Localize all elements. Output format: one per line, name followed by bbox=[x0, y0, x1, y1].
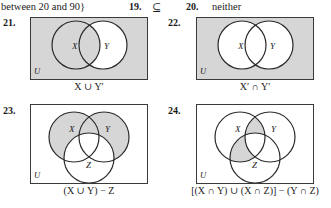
problem-21-number: 21. bbox=[3, 17, 16, 28]
textbook-answer-page: between 20 and 90} 19. ⊆ 20. neither 21. bbox=[0, 0, 331, 208]
problem-23-caption: (X ∪ Y) − Z bbox=[30, 185, 148, 196]
problem-21-caption: X ∪ Y′ bbox=[30, 81, 148, 92]
problem-21-universe-label: U bbox=[34, 67, 40, 76]
answer-value-20: neither bbox=[212, 0, 241, 13]
problem-24-caption: [(X ∩ Y) ∪ (X ∩ Z)] − (Y ∩ Z) bbox=[133, 185, 331, 196]
circle-X-label: X bbox=[71, 41, 78, 51]
problem-23-universe-label: U bbox=[34, 171, 40, 180]
problem-24-universe-label: U bbox=[200, 171, 206, 180]
shaded-X-union-Y-minus-Z bbox=[49, 112, 129, 162]
problem-24-number: 24. bbox=[168, 105, 181, 116]
problem-21-venn-box: X Y bbox=[30, 17, 148, 80]
problem-23-number: 23. bbox=[3, 105, 16, 116]
answer-number-20: 20. bbox=[186, 0, 199, 13]
problem-22-venn-box: X Y bbox=[196, 17, 314, 80]
problem-23-venn-box: X Y Z bbox=[30, 104, 148, 184]
problem-22-number: 22. bbox=[168, 17, 181, 28]
problem-24-venn-diagram: X Y Z bbox=[197, 105, 313, 183]
problem-24-venn-box: X Y Z bbox=[196, 104, 314, 184]
problem-21-venn-diagram: X Y bbox=[31, 18, 147, 79]
answer-number-19: 19. bbox=[129, 0, 142, 13]
problem-23-venn-diagram: X Y Z bbox=[31, 105, 147, 183]
circle-X-label: X bbox=[237, 41, 244, 51]
answer-value-19-subset-icon: ⊆ bbox=[152, 1, 161, 14]
problem-22-venn-diagram: X Y bbox=[197, 18, 313, 79]
problem-22-caption: X′ ∩ Y′ bbox=[196, 81, 314, 92]
problem-22-universe-label: U bbox=[200, 67, 206, 76]
circle-X-label: X bbox=[234, 124, 241, 134]
circle-X-label: X bbox=[68, 124, 75, 134]
answer-strip: between 20 and 90} 19. ⊆ 20. neither bbox=[0, 0, 331, 14]
continued-answer-text: between 20 and 90} bbox=[1, 0, 85, 13]
